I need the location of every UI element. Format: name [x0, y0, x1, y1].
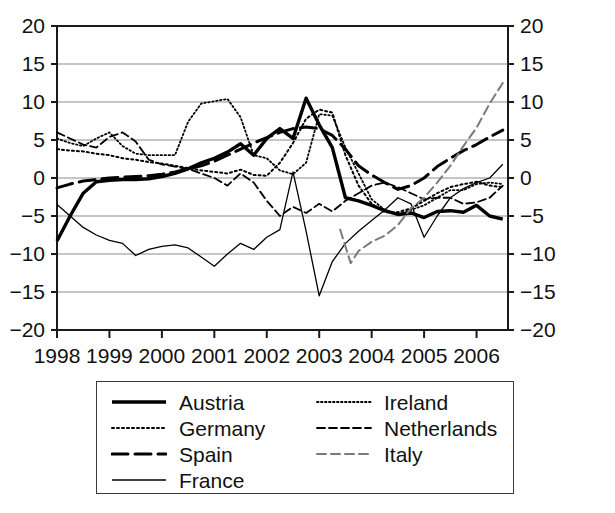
y-tick-label-right: −20 — [520, 318, 556, 341]
legend-item-spain[interactable]: Spain — [111, 441, 316, 467]
y-tick-label-left: −20 — [9, 318, 45, 341]
legend-item-france[interactable]: France — [111, 467, 316, 493]
y-tick-label-right: 20 — [520, 14, 543, 37]
legend-swatch-italy-icon — [316, 447, 372, 461]
y-axis-right: −20−15−10−505101520 — [508, 14, 556, 341]
legend-label: Spain — [179, 444, 233, 465]
x-tick-label: 2006 — [453, 344, 500, 367]
legend-label: Ireland — [384, 392, 448, 413]
legend-swatch-ireland-icon — [316, 395, 372, 409]
x-axis: 199819992000200120022003200420052006 — [34, 330, 500, 367]
legend-item-italy[interactable]: Italy — [316, 441, 529, 467]
series-line-netherlands — [57, 132, 503, 216]
y-tick-label-left: −5 — [21, 204, 45, 227]
legend-label: Netherlands — [384, 418, 497, 439]
y-tick-label-left: 15 — [22, 52, 45, 75]
legend-swatch-france-icon — [111, 473, 167, 487]
legend-swatch-netherlands-icon — [316, 421, 372, 435]
legend-label: Austria — [179, 392, 244, 413]
y-tick-label-right: 15 — [520, 52, 543, 75]
legend-swatch-spain-icon — [111, 447, 167, 461]
data-series-group — [57, 83, 503, 296]
y-tick-label-right: 5 — [520, 128, 532, 151]
legend-label: France — [179, 470, 244, 491]
legend-item-germany[interactable]: Germany — [111, 415, 316, 441]
y-tick-label-left: −10 — [9, 242, 45, 265]
x-tick-label: 1999 — [86, 344, 133, 367]
y-tick-label-right: 10 — [520, 90, 543, 113]
legend-label: Germany — [179, 418, 265, 439]
series-line-italy — [340, 83, 503, 263]
y-tick-label-right: 0 — [520, 166, 532, 189]
legend-swatch-austria-icon — [111, 395, 167, 409]
y-tick-label-left: −15 — [9, 280, 45, 303]
y-tick-label-right: −5 — [520, 204, 544, 227]
y-tick-label-left: 0 — [33, 166, 45, 189]
chart-canvas: −20−15−10−505101520 −20−15−10−505101520 … — [0, 0, 615, 370]
y-tick-label-left: 10 — [22, 90, 45, 113]
legend-item-ireland[interactable]: Ireland — [316, 389, 529, 415]
x-tick-label: 2004 — [348, 344, 395, 367]
y-tick-label-left: 5 — [33, 128, 45, 151]
legend-label: Italy — [384, 444, 423, 465]
legend-swatch-germany-icon — [111, 421, 167, 435]
x-tick-label: 2003 — [296, 344, 343, 367]
series-line-germany — [57, 110, 503, 213]
legend-grid: AustriaIrelandGermanyNetherlandsSpainIta… — [97, 382, 513, 493]
y-axis-left: −20−15−10−505101520 — [9, 14, 57, 341]
x-tick-label: 2000 — [139, 344, 186, 367]
legend: AustriaIrelandGermanyNetherlandsSpainIta… — [96, 381, 514, 494]
x-tick-label: 2005 — [401, 344, 448, 367]
y-tick-label-right: −15 — [520, 280, 556, 303]
x-tick-label: 2002 — [243, 344, 290, 367]
line-chart: −20−15−10−505101520 −20−15−10−505101520 … — [0, 0, 615, 370]
legend-item-austria[interactable]: Austria — [111, 389, 316, 415]
y-tick-label-right: −10 — [520, 242, 556, 265]
legend-item-netherlands[interactable]: Netherlands — [316, 415, 529, 441]
chart-page: −20−15−10−505101520 −20−15−10−505101520 … — [0, 0, 615, 513]
x-tick-label: 2001 — [191, 344, 238, 367]
y-tick-label-left: 20 — [22, 14, 45, 37]
x-tick-label: 1998 — [34, 344, 81, 367]
